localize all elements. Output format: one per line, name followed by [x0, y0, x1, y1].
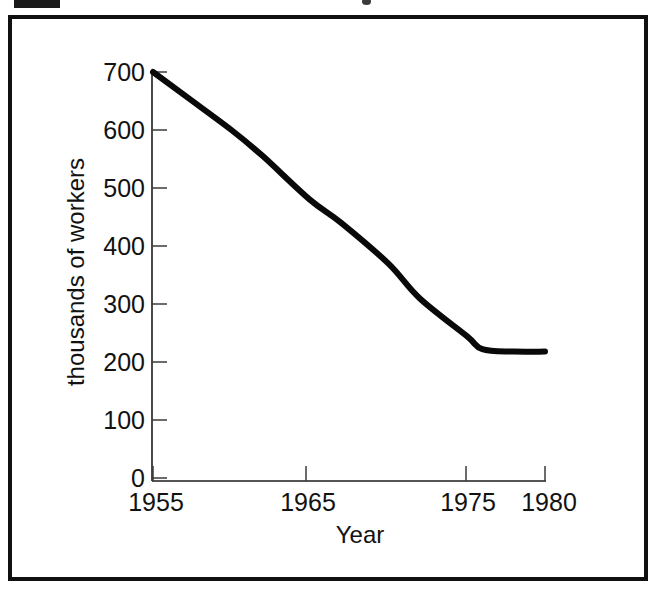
- y-tick-label-400: 400: [103, 232, 145, 260]
- x-tick-label-1965: 1965: [280, 488, 336, 516]
- x-tick-label-1980: 1980: [521, 488, 577, 516]
- y-tick-label-500: 500: [103, 174, 145, 202]
- x-axis-title: Year: [336, 521, 385, 548]
- y-tick-label-200: 200: [103, 348, 145, 376]
- data-series-line: [153, 72, 545, 352]
- y-tick-label-300: 300: [103, 290, 145, 318]
- x-tick-label-1975: 1975: [440, 488, 496, 516]
- y-axis-ticks: [152, 72, 167, 478]
- y-tick-label-600: 600: [103, 116, 145, 144]
- y-axis-title: thousands of workers: [62, 158, 89, 386]
- y-tick-label-100: 100: [103, 406, 145, 434]
- y-tick-label-700: 700: [103, 58, 145, 86]
- x-axis-ticks: [153, 466, 545, 481]
- x-tick-label-1955: 1955: [128, 488, 184, 516]
